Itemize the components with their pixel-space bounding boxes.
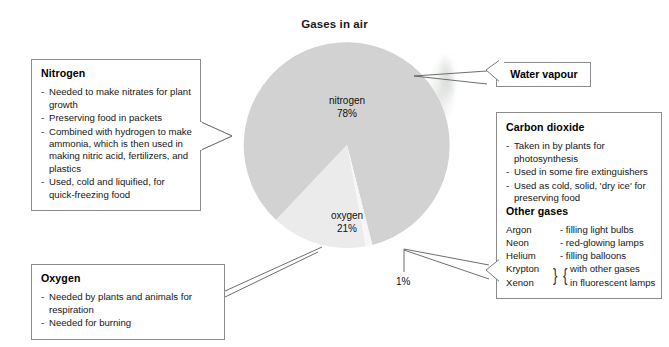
callout-right-panel: Carbon dioxide -Taken in by plants for p… [496,112,662,299]
bullet-dash: - [41,291,44,303]
callout-other-gases-title: Other gases [506,205,654,217]
pie-label-nitrogen-name: nitrogen [295,94,399,107]
list-item: -Needed for burning [41,317,216,329]
list-item: -Needed to make nitrates for plant growt… [41,86,192,111]
gas-use: with other gases [560,262,654,275]
bullet-dash: - [506,140,509,152]
gas-use: - filling balloons [560,249,654,262]
list-item-text: Used, cold and liquified, for quick-free… [49,176,165,199]
other-gases-table: Argon - filling light bulbs Neon - red-g… [506,223,654,289]
gas-name: Neon [506,236,560,249]
callout-nitrogen-title: Nitrogen [41,67,192,79]
callout-oxygen-list: -Needed by plants and animals for respir… [41,291,216,329]
page-title: Gases in air [0,18,669,30]
callout-nitrogen-list: -Needed to make nitrates for plant growt… [41,86,192,201]
bullet-dash: - [41,112,44,124]
pie-label-other-percent: 1% [396,276,410,287]
pie-label-oxygen-name: oxygen [295,209,399,222]
connector-oxygen-lower [225,252,318,297]
pie-chart: nitrogen 78% oxygen 21% [243,41,451,249]
connector-oxygen-upper [225,247,322,291]
other-gases-paired-group: } { Krypton with other gases Xenon in fl… [506,262,654,288]
gas-name: Krypton [506,262,560,275]
callout-carbon-dioxide-title: Carbon dioxide [506,121,654,133]
gas-name: Helium [506,249,560,262]
list-item: -Used as cold, solid, 'dry ice' for pres… [506,180,654,205]
list-item: -Preserving food in packets [41,112,192,124]
brace-right-icon: } [553,265,557,284]
list-item: -Taken in by plants for photosynthesis [506,140,654,165]
bullet-dash: - [41,317,44,329]
list-item-text: Taken in by plants for photosynthesis [514,140,605,163]
gas-use: - red-glowing lamps [560,236,654,249]
callout-oxygen: Oxygen -Needed by plants and animals for… [31,264,225,340]
callout-nitrogen: Nitrogen -Needed to make nitrates for pl… [31,59,201,211]
list-item: -Needed by plants and animals for respir… [41,291,216,316]
list-item-text: Needed by plants and animals for respira… [49,291,192,314]
list-item-text: Combined with hydrogen to make ammonia, … [49,126,192,174]
list-item-text: Used as cold, solid, 'dry ice' for prese… [514,180,646,203]
bullet-dash: - [506,166,509,178]
table-row: Xenon in fluorescent lamps [506,276,654,289]
bullet-dash: - [41,86,44,98]
gas-use: - filling light bulbs [560,223,654,236]
bullet-dash: - [506,180,509,192]
callout-water-vapour: Water vapour [496,62,591,87]
list-item: -Used, cold and liquified, for quick-fre… [41,176,192,201]
pie-label-oxygen-percent: 21% [295,222,399,235]
list-item-text: Needed to make nitrates for plant growth [49,86,191,109]
list-item-text: Preserving food in packets [49,112,162,123]
list-item: -Used in some fire extinguishers [506,166,654,178]
callout-oxygen-title: Oxygen [41,272,216,284]
bullet-dash: - [41,176,44,188]
table-row: Argon - filling light bulbs [506,223,654,236]
brace-left-icon: { [563,265,567,284]
pie-label-nitrogen-percent: 78% [295,107,399,120]
list-item-text: Needed for burning [49,317,131,328]
gas-name: Xenon [506,276,560,289]
callout-carbon-dioxide-list: -Taken in by plants for photosynthesis -… [506,140,654,204]
connector-other-upper [404,249,489,265]
list-item: -Combined with hydrogen to make ammonia,… [41,126,192,176]
table-row: Krypton with other gases [506,262,654,275]
gas-use: in fluorescent lamps [560,276,655,289]
diagram-canvas: Gases in air nitrogen 78% oxygen 21% 1% [0,0,669,347]
connector-other-lower [404,250,489,279]
pie-label-oxygen: oxygen 21% [295,209,399,235]
gas-name: Argon [506,223,560,236]
pie-label-nitrogen: nitrogen 78% [295,94,399,120]
connector-nitrogen [201,122,232,150]
bullet-dash: - [41,126,44,138]
callout-nitrogen-pointer [199,118,235,154]
callout-water-vapour-title: Water vapour [506,68,582,80]
table-row: Helium - filling balloons [506,249,654,262]
list-item-text: Used in some fire extinguishers [514,166,648,177]
table-row: Neon - red-glowing lamps [506,236,654,249]
